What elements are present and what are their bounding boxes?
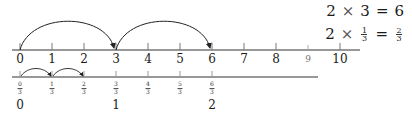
top-label-4: 4 bbox=[144, 53, 152, 65]
jump-arc-1third-2thirds bbox=[53, 69, 83, 77]
top-label-2: 2 bbox=[80, 53, 88, 65]
fraction-3-3: 33 bbox=[114, 81, 119, 95]
times-symbol: × bbox=[342, 3, 355, 19]
top-label-8: 8 bbox=[272, 53, 280, 65]
equals-symbol: = bbox=[376, 3, 389, 19]
fraction-5-3: 53 bbox=[178, 81, 183, 95]
fraction-6-3: 63 bbox=[210, 81, 215, 95]
top-label-1: 1 bbox=[48, 53, 56, 65]
whole-label-1: 1 bbox=[112, 99, 120, 111]
fraction-4-3: 43 bbox=[146, 81, 151, 95]
fraction-1-3: 13 bbox=[50, 81, 55, 95]
top-label-5: 5 bbox=[176, 53, 184, 65]
whole-label-0: 0 bbox=[16, 99, 24, 111]
top-label-3: 3 bbox=[112, 53, 120, 65]
top-label-0: 0 bbox=[16, 53, 24, 65]
times-symbol: × bbox=[341, 26, 354, 42]
jump-arc-0-3 bbox=[20, 21, 114, 50]
equals-symbol: = bbox=[375, 26, 388, 42]
top-label-9: 9 bbox=[305, 53, 311, 65]
top-label-6: 6 bbox=[208, 53, 216, 65]
fraction-one-third: 13 bbox=[361, 27, 367, 42]
fraction-two-thirds: 23 bbox=[396, 27, 402, 42]
top-label-10: 10 bbox=[332, 53, 347, 65]
fraction-0-3: 03 bbox=[18, 81, 23, 95]
whole-label-2: 2 bbox=[208, 99, 216, 111]
equation-fraction: 2 × 13 = 23 bbox=[325, 26, 404, 42]
equation-whole: 2 × 3 = 6 bbox=[326, 3, 404, 19]
top-label-7: 7 bbox=[240, 53, 248, 65]
jump-arc-0-1third bbox=[21, 69, 51, 77]
fraction-2-3: 23 bbox=[82, 81, 87, 95]
bottom-number-line bbox=[12, 69, 318, 78]
jump-arc-3-6 bbox=[116, 21, 210, 50]
top-number-line bbox=[12, 21, 360, 50]
